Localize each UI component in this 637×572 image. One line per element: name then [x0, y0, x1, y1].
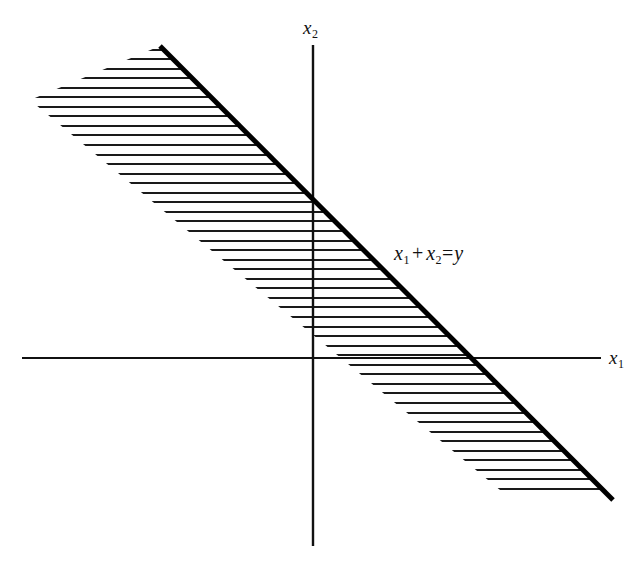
constraint-line [160, 46, 613, 500]
equation-plus-operator: + [409, 242, 426, 264]
x2-axis-label-base: x [303, 17, 311, 38]
equation-term1-base: x [394, 242, 403, 264]
x2-axis-label-subscript: 2 [312, 27, 318, 41]
equation-term1-subscript: 1 [403, 253, 409, 267]
constraint-line-equation-label: x1+x2=y [394, 243, 463, 263]
x1-axis-label: x1 [609, 348, 623, 367]
x2-axis-label: x2 [303, 18, 317, 37]
equation-term2-subscript: 2 [436, 253, 442, 267]
equation-term2-base: x [426, 242, 435, 264]
equation-equals-sign: = [441, 242, 454, 264]
equation-rhs: y [454, 242, 463, 264]
x1-axis-label-subscript: 1 [618, 357, 624, 371]
feasible-region-hatch [0, 50, 637, 489]
figure-canvas: x2 x1 x1+x2=y [0, 0, 637, 572]
x1-axis-label-base: x [609, 347, 617, 368]
figure-graphic [0, 0, 637, 572]
